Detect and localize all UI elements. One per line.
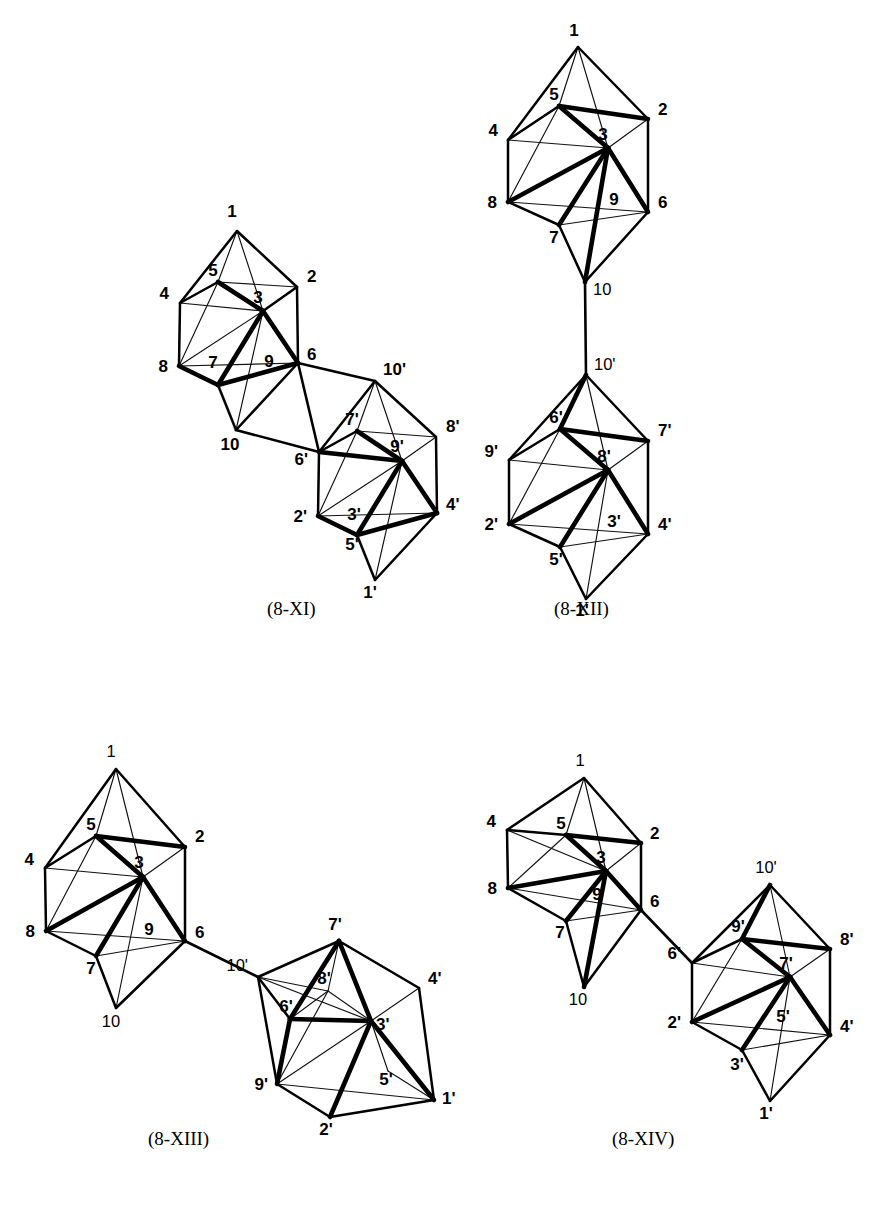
vertex-label: 1'	[363, 583, 377, 602]
vertex-label: 1	[106, 742, 115, 760]
vertex-label: 7'	[345, 410, 359, 429]
vertex-label: 4	[489, 121, 499, 140]
vertex-label: 1'	[759, 1104, 773, 1123]
vertex-label: 10'	[594, 355, 616, 373]
vertex-label: 6'	[295, 450, 309, 469]
vertex-label: 6	[307, 345, 316, 364]
vertex-label: 4'	[840, 1017, 854, 1036]
figure-caption-8-XII: (8-XII)	[554, 598, 609, 620]
figure-page: 1 5 2 3 4 9 8 7 6 10 10' 7' 8' 9' 6' 3' …	[0, 0, 885, 1221]
vertex-label: 2'	[294, 507, 308, 526]
vertex-label: 10	[593, 280, 611, 298]
figure-caption-8-XIV: (8-XIV)	[612, 1128, 674, 1150]
figure-caption-8-XI: (8-XI)	[267, 598, 316, 620]
vertex-label: 4	[487, 812, 497, 831]
figure-8-XIII: 1 5 2 3 4 9 8 7 6 10 10' 7' 8' 4' 6' 3' …	[25, 742, 456, 1139]
vertex-label: 6	[658, 193, 667, 212]
vertex-label: 6'	[279, 997, 293, 1016]
cluster-linkage-8XIV	[641, 910, 692, 963]
vertex-labels-8XIII: 1 5 2 3 4 9 8 7 6 10 10' 7' 8' 4' 6' 3' …	[25, 742, 456, 1139]
vertex-label: 3'	[730, 1055, 744, 1074]
vertex-label: 3'	[607, 512, 621, 531]
vertex-label: 7'	[328, 915, 342, 934]
vertex-label: 8	[488, 193, 497, 212]
figure-8-XI: 1 5 2 3 4 9 8 7 6 10 10' 7' 8' 9' 6' 3' …	[159, 202, 460, 602]
vertex-label: 3'	[376, 1015, 390, 1034]
vertex-label: 4'	[658, 515, 672, 534]
vertex-label: 2'	[668, 1013, 682, 1032]
cluster-unprimed-8XIV	[507, 778, 641, 987]
vertex-label: 7	[208, 353, 217, 372]
vertex-label: 9	[144, 920, 153, 939]
vertex-label: 10	[221, 435, 240, 454]
vertex-label: 10'	[226, 956, 248, 974]
cluster-unprimed-8XIII	[45, 769, 185, 1008]
vertex-label: 2'	[319, 1120, 333, 1139]
vertex-label: 8'	[317, 969, 331, 988]
vertex-label: 2	[195, 827, 204, 846]
vertex-label: 3	[596, 848, 605, 867]
vertex-label: 4'	[428, 969, 442, 988]
vertex-label: 5'	[549, 550, 563, 569]
vertex-label: 6	[195, 923, 204, 942]
vertex-label: 10'	[383, 360, 406, 379]
vertex-label: 4	[25, 850, 35, 869]
vertex-label: 9'	[731, 917, 745, 936]
vertex-label: 9'	[485, 442, 499, 461]
cluster-primed-8XIII	[258, 941, 434, 1117]
vertex-label: 9'	[390, 437, 404, 456]
vertex-label: 7	[549, 228, 558, 247]
vertex-label: 2	[307, 267, 316, 286]
cluster-primed-8XIV	[692, 885, 830, 1101]
vertex-label: 3	[598, 125, 607, 144]
vertex-label: 4'	[446, 495, 460, 514]
vertex-label: 8	[26, 922, 35, 941]
vertex-label: 6	[650, 892, 659, 911]
vertex-label: 6'	[549, 408, 563, 427]
cluster-linkage-8XII	[585, 282, 586, 375]
cluster-unprimed-8XI	[179, 231, 298, 430]
vertex-label: 1'	[442, 1089, 456, 1108]
vertex-label: 7	[555, 923, 564, 942]
vertex-label: 5	[208, 261, 217, 280]
figure-8-XII: 1 5 2 3 4 9 8 7 6 10 10' 6' 7' 8' 9' 3' …	[485, 21, 672, 620]
vertex-label: 3	[253, 288, 262, 307]
vertex-label: 10	[102, 1012, 120, 1030]
vertex-label: 2	[650, 824, 659, 843]
vertex-label: 7'	[658, 421, 672, 440]
cluster-unprimed-8XII	[508, 47, 648, 282]
vertex-label: 7'	[779, 954, 793, 973]
vertex-label: 5	[86, 815, 95, 834]
vertex-label: 3	[134, 853, 143, 872]
vertex-label: 7	[86, 959, 95, 978]
vertex-label: 8	[488, 879, 497, 898]
vertex-label: 8'	[840, 930, 854, 949]
vertex-label: 1	[227, 202, 236, 221]
vertex-label: 9'	[255, 1075, 269, 1094]
vertex-label: 8'	[446, 417, 460, 436]
vertex-label: 3'	[347, 505, 361, 524]
vertex-label: 9	[264, 352, 273, 371]
vertex-label: 6'	[668, 944, 682, 963]
vertex-label: 10'	[755, 858, 777, 876]
vertex-label: 1	[575, 751, 584, 769]
vertex-label: 8'	[597, 447, 611, 466]
vertex-label: 8	[159, 357, 168, 376]
vertex-label: 5	[556, 814, 565, 833]
vertex-label: 9	[592, 885, 601, 904]
vertex-label: 2'	[485, 515, 499, 534]
vertex-label: 4	[160, 284, 170, 303]
vertex-label: 9	[609, 190, 618, 209]
cluster-diagram-canvas: 1 5 2 3 4 9 8 7 6 10 10' 7' 8' 9' 6' 3' …	[0, 0, 885, 1221]
vertex-label: 5'	[345, 535, 359, 554]
figure-caption-8-XIII: (8-XIII)	[148, 1128, 209, 1150]
vertex-label: 5'	[379, 1070, 393, 1089]
vertex-label: 10	[569, 990, 587, 1008]
vertex-label: 1	[569, 21, 578, 40]
figure-8-XIV: 1 5 2 3 4 9 8 7 6 10 10' 9' 8' 7' 6' 5' …	[487, 751, 854, 1123]
cluster-primed-8XI	[318, 381, 437, 580]
cluster-primed-8XII	[509, 375, 648, 599]
vertex-label: 5	[549, 85, 558, 104]
vertex-label: 5'	[776, 1007, 790, 1026]
vertex-label: 2	[658, 100, 667, 119]
